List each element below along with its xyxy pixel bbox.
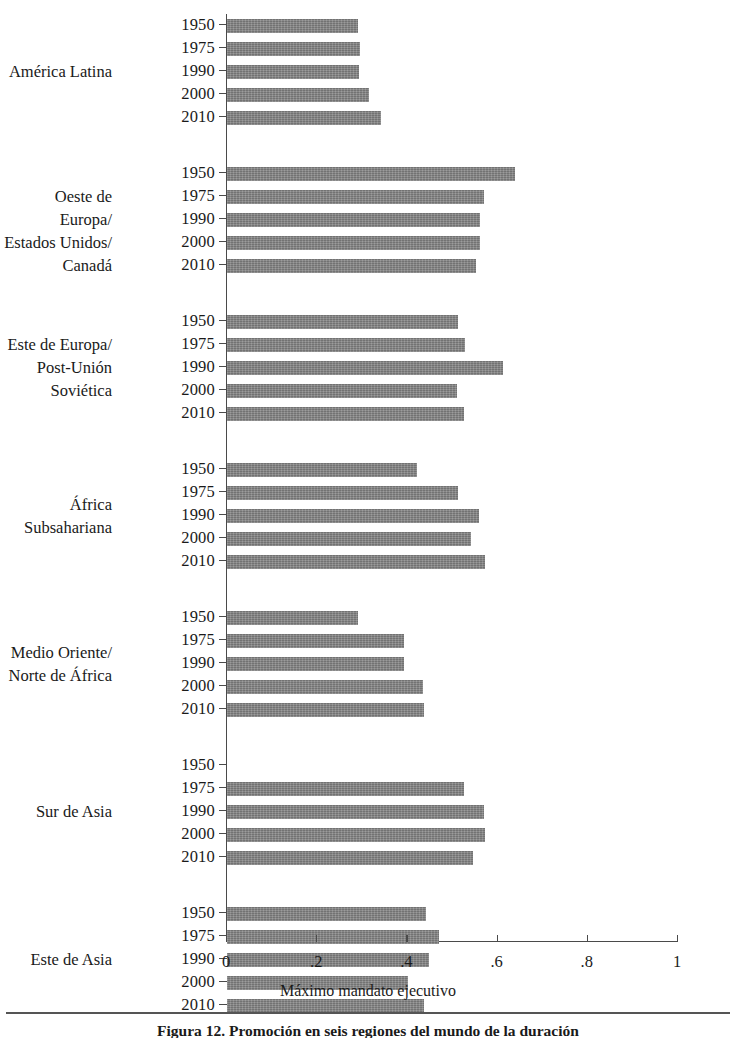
bar-row: 1990 [0, 652, 736, 675]
y-axis-tick [219, 366, 227, 367]
y-axis-tick [219, 662, 227, 663]
x-axis-tick [226, 935, 227, 942]
bar-row: 1950 [0, 310, 736, 333]
bar [227, 213, 480, 227]
bar-row: 1975 [0, 629, 736, 652]
bar-group: Sur de Asia19501975199020002010 [0, 754, 736, 869]
y-axis-tick [219, 47, 227, 48]
year-tick-label: 1950 [120, 754, 215, 777]
bar [227, 463, 417, 477]
x-axis-tick [587, 935, 588, 942]
y-axis-tick [219, 810, 227, 811]
bar-row: 1950 [0, 754, 736, 777]
year-tick-label: 2010 [120, 698, 215, 721]
year-tick-label: 1975 [120, 481, 215, 504]
y-axis-tick [219, 70, 227, 71]
bar-row: 2000 [0, 83, 736, 106]
year-tick-label: 1990 [120, 800, 215, 823]
bar-row: 2000 [0, 527, 736, 550]
bar [227, 703, 424, 717]
x-axis-tick-label: 0 [206, 952, 246, 972]
bar [227, 384, 457, 398]
bar-row: 1975 [0, 185, 736, 208]
year-tick-label: 1950 [120, 14, 215, 37]
bar-row: 1950 [0, 458, 736, 481]
x-axis-title: Máximo mandato ejecutivo [0, 982, 736, 1000]
year-tick-label: 1950 [120, 162, 215, 185]
bar-row: 1990 [0, 504, 736, 527]
y-axis-tick [219, 24, 227, 25]
bar-row: 1975 [0, 37, 736, 60]
y-axis-tick [219, 708, 227, 709]
year-tick-label: 1990 [120, 504, 215, 527]
y-axis-tick [219, 389, 227, 390]
figure-container: América Latina19501975199020002010Oeste … [0, 0, 736, 1038]
y-axis-tick [219, 491, 227, 492]
x-axis-tick-label: .8 [567, 952, 607, 972]
bar [227, 509, 479, 523]
bar-group: América Latina19501975199020002010 [0, 14, 736, 129]
bar [227, 486, 458, 500]
bar [227, 190, 484, 204]
bar [227, 555, 485, 569]
y-axis-tick [219, 320, 227, 321]
bar-row: 2010 [0, 698, 736, 721]
bar-row: 2000 [0, 231, 736, 254]
bar [227, 532, 471, 546]
year-tick-label: 2010 [120, 106, 215, 129]
figure-caption: Figura 12. Promoción en seis regiones de… [60, 1021, 676, 1038]
bar-group: ÁfricaSubsahariana19501975199020002010 [0, 458, 736, 573]
bar-row: 2000 [0, 379, 736, 402]
bar-row: 1990 [0, 356, 736, 379]
x-axis-tick [497, 935, 498, 942]
x-axis-tick-label: .6 [477, 952, 517, 972]
bar-group: Este de Europa/Post-UniónSoviética195019… [0, 310, 736, 425]
bar-row: 1990 [0, 800, 736, 823]
y-axis-tick [219, 93, 227, 94]
year-tick-label: 1950 [120, 310, 215, 333]
bar-row: 1975 [0, 777, 736, 800]
year-tick-label: 1975 [120, 185, 215, 208]
bar [227, 407, 464, 421]
year-tick-label: 1975 [120, 777, 215, 800]
bar [227, 338, 465, 352]
bar-row: 1990 [0, 60, 736, 83]
y-axis-tick [219, 241, 227, 242]
caption-divider [6, 1012, 730, 1014]
bar [227, 111, 381, 125]
bar-row: 1950 [0, 162, 736, 185]
bar [227, 167, 515, 181]
y-axis-tick [219, 264, 227, 265]
plot-area: América Latina19501975199020002010Oeste … [0, 0, 736, 960]
x-axis-tick-label: .4 [386, 952, 426, 972]
bar [227, 236, 480, 250]
x-axis-tick [316, 935, 317, 942]
y-axis-tick [219, 412, 227, 413]
x-axis-tick-label: .2 [296, 952, 336, 972]
bar [227, 259, 476, 273]
x-axis-tick [677, 935, 678, 942]
y-axis-tick [219, 218, 227, 219]
bar-row: 1950 [0, 14, 736, 37]
year-tick-label: 1990 [120, 60, 215, 83]
y-axis-tick [219, 116, 227, 117]
bar-row: 2000 [0, 823, 736, 846]
year-tick-label: 2000 [120, 823, 215, 846]
bar [227, 907, 426, 921]
year-tick-label: 2000 [120, 379, 215, 402]
year-tick-label: 1975 [120, 629, 215, 652]
bar-row: 1975 [0, 481, 736, 504]
bar [227, 680, 423, 694]
bar-row: 1975 [0, 333, 736, 356]
year-tick-label: 2010 [120, 846, 215, 869]
year-tick-label: 1975 [120, 333, 215, 356]
y-axis-tick [219, 856, 227, 857]
bar-row: 2000 [0, 675, 736, 698]
bar-row: 1990 [0, 208, 736, 231]
x-axis-tick [406, 935, 407, 942]
year-tick-label: 1990 [120, 948, 215, 971]
y-axis-tick [219, 639, 227, 640]
bar-row: 1990 [0, 948, 736, 971]
bar [227, 657, 404, 671]
bar-row: 2010 [0, 846, 736, 869]
